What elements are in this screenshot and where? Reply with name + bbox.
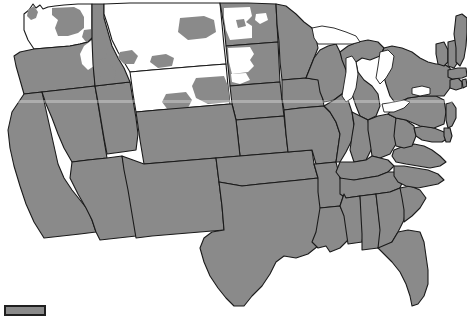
us-map-figure bbox=[0, 0, 467, 318]
state-CO[interactable] bbox=[136, 104, 240, 164]
lake-superior bbox=[312, 26, 360, 44]
state-NM[interactable] bbox=[122, 156, 224, 238]
state-KS[interactable] bbox=[236, 116, 288, 156]
state-VT[interactable] bbox=[436, 42, 448, 66]
legend-swatch-gray bbox=[4, 305, 46, 316]
state-RI[interactable] bbox=[462, 79, 467, 88]
state-VA[interactable] bbox=[392, 144, 446, 168]
state-ME[interactable] bbox=[454, 14, 467, 66]
map-legend bbox=[4, 305, 51, 316]
state-NJ[interactable] bbox=[446, 102, 456, 128]
us-map-svg bbox=[0, 0, 467, 318]
lake-ontario bbox=[412, 86, 430, 96]
state-CT[interactable] bbox=[450, 78, 462, 90]
state-DE[interactable] bbox=[444, 128, 452, 142]
state-IA[interactable] bbox=[282, 78, 324, 110]
state-NE[interactable] bbox=[230, 82, 284, 120]
state-MA[interactable] bbox=[448, 68, 467, 79]
state-SC[interactable] bbox=[400, 186, 426, 222]
state-MD[interactable] bbox=[414, 126, 448, 142]
